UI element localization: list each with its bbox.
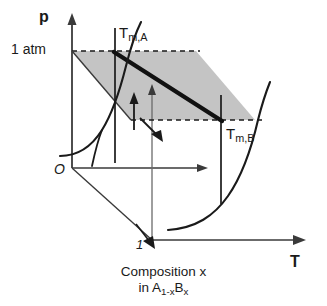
one-atm-tick-label: 1 atm: [11, 42, 46, 56]
caption-formula-prefix: in A: [139, 280, 162, 295]
caption-formula-sub2: x: [184, 286, 189, 297]
front-temperature-axis-arrowhead: [293, 235, 306, 245]
phase-diagram-canvas: [0, 0, 327, 306]
composition-tick-label: 1: [136, 238, 143, 251]
melting-point-b-symbol: T: [226, 125, 235, 142]
pressure-axis-arrowhead: [68, 13, 77, 25]
melting-point-a-subscript: m,A: [128, 31, 147, 43]
back-temperature-axis-arrowhead: [197, 164, 208, 172]
melting-point-a-symbol: T: [119, 24, 128, 41]
melting-point-b-subscript: m,B: [235, 132, 254, 144]
caption-line-1: Composition x: [121, 264, 207, 279]
caption-formula-mid: B: [175, 280, 184, 295]
caption-formula-sub1: 1-x: [161, 286, 175, 297]
figure-caption: Composition x in A1-xBx: [0, 264, 327, 298]
melting-point-b-label: Tm,B: [226, 126, 254, 144]
phase-diagram-figure: p 1 atm T O 1 Tm,A Tm,B Composition x in…: [0, 0, 327, 306]
melting-point-a-label: Tm,A: [119, 25, 147, 43]
pressure-axis-label: p: [39, 9, 49, 25]
caption-line-2: in A1-xBx: [0, 280, 327, 298]
origin-label: O: [54, 162, 65, 176]
